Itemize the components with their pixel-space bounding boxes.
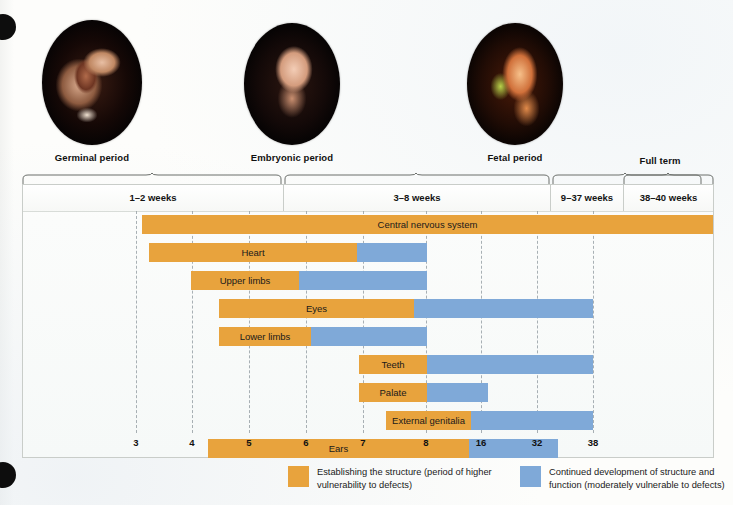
photo-cell-embryonic: Embryonic period [222,23,362,163]
legend-label-establishing: Establishing the structure (period of hi… [317,466,532,491]
fetal-embryo-photo [467,23,563,145]
axis-tick-3: 3 [133,437,138,448]
header-weeks-germinal: 1–2 weeks [23,185,283,211]
table-row: Teeth [23,355,713,374]
period-header-row: 1–2 weeks 3–8 weeks 9–37 weeks 38–40 wee… [23,185,713,212]
legend-item-continued: Continued development of structure and f… [520,466,733,491]
axis-tick-7: 7 [360,437,365,448]
axis-tick-38: 38 [588,437,599,448]
table-row: Heart [23,243,713,262]
chart-panel: 1–2 weeks 3–8 weeks 9–37 weeks 38–40 wee… [22,184,714,458]
legend-item-establishing: Establishing the structure (period of hi… [288,466,532,491]
legend-label-continued: Continued development of structure and f… [549,466,733,491]
bar-label-upper-limbs: Upper limbs [191,271,299,290]
legend-swatch-orange [288,466,309,487]
full-term-photo-placeholder [595,23,725,148]
chart-legend: Establishing the structure (period of hi… [0,466,733,504]
bar-segment-blue [414,299,593,318]
axis-tick-5: 5 [246,437,251,448]
table-row: Lower limbs [23,327,713,346]
photo-label-fetal: Fetal period [445,152,585,163]
bar-segment-blue [427,383,488,402]
embryonic-embryo-photo [244,23,340,145]
x-axis: 3 4 5 6 7 8 16 32 38 [23,433,713,457]
bar-segment-blue [299,271,427,290]
photo-cell-germinal: Germinal period [22,20,162,163]
table-row: External genitalia [23,411,713,430]
table-row: Eyes [23,299,713,318]
axis-tick-8: 8 [423,437,428,448]
photo-row: Germinal period Embryonic period Fetal p… [0,0,733,175]
axis-tick-6: 6 [303,437,308,448]
photo-cell-full-term: Full term [595,23,725,166]
bar-label-central-nervous-system: Central nervous system [142,215,713,234]
table-row: Central nervous system [23,215,713,234]
axis-tick-16: 16 [476,437,487,448]
header-weeks-embryonic: 3–8 weeks [284,185,550,211]
bar-segment-blue [471,411,593,430]
bar-segment-blue [427,355,593,374]
bar-label-eyes: Eyes [219,299,414,318]
bar-segment-blue [357,243,427,262]
photo-label-germinal: Germinal period [22,152,162,163]
bar-label-heart: Heart [149,243,357,262]
bar-label-teeth: Teeth [359,355,427,374]
header-weeks-fetal: 9–37 weeks [551,185,623,211]
axis-tick-32: 32 [532,437,543,448]
bar-label-lower-limbs: Lower limbs [219,327,311,346]
table-row: Palate [23,383,713,402]
plot-area: Central nervous system Heart Upper limbs [23,211,713,433]
bar-label-palate: Palate [359,383,427,402]
bar-label-external-genitalia: External genitalia [386,411,471,430]
bar-segment-blue [311,327,427,346]
table-row: Upper limbs [23,271,713,290]
legend-swatch-blue [520,466,541,487]
photo-label-full-term: Full term [595,155,725,166]
axis-tick-4: 4 [189,437,194,448]
photo-cell-fetal: Fetal period [445,23,585,163]
germinal-embryo-photo [42,20,142,145]
photo-label-embryonic: Embryonic period [222,152,362,163]
header-weeks-full-term: 38–40 weeks [624,185,713,211]
